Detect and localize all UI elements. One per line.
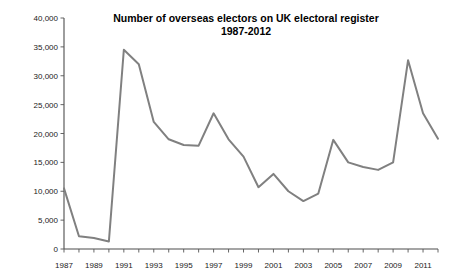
y-tick-label: 10,000 [34, 187, 59, 196]
x-tick-label: 2001 [265, 261, 283, 270]
y-tick-label: 30,000 [34, 72, 59, 81]
x-tick-label: 2003 [294, 261, 312, 270]
y-tick-label: 40,000 [34, 14, 59, 23]
x-tick-label: 2007 [354, 261, 372, 270]
y-tick-label: 0 [54, 245, 59, 254]
y-tick-label: 5,000 [38, 216, 59, 225]
x-tick-label: 2009 [384, 261, 402, 270]
line-chart: Number of overseas electors on UK electo… [0, 0, 451, 279]
chart-title-group: Number of overseas electors on UK electo… [113, 12, 379, 37]
data-line-overseas-electors [64, 50, 438, 242]
y-tick-label: 20,000 [34, 130, 59, 139]
chart-figure: Number of overseas electors on UK electo… [0, 0, 451, 279]
x-tick-label: 1991 [115, 261, 133, 270]
y-axis: 05,00010,00015,00020,00025,00030,00035,0… [34, 14, 64, 254]
y-tick-label: 25,000 [34, 101, 59, 110]
x-tick-label: 1997 [205, 261, 223, 270]
y-tick-label: 35,000 [34, 43, 59, 52]
chart-subtitle: 1987-2012 [221, 25, 271, 37]
x-tick-label: 1995 [175, 261, 193, 270]
chart-title: Number of overseas electors on UK electo… [113, 12, 379, 24]
x-tick-label: 1999 [235, 261, 253, 270]
x-tick-label: 1987 [55, 261, 73, 270]
x-tick-label: 1993 [145, 261, 163, 270]
x-tick-label: 2011 [414, 261, 432, 270]
x-tick-label: 2005 [324, 261, 342, 270]
x-axis: 1987198919911993199519971999200120032005… [55, 249, 438, 270]
y-tick-label: 15,000 [34, 158, 59, 167]
x-tick-label: 1989 [85, 261, 103, 270]
